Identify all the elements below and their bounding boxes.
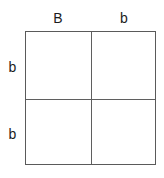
row-header-1: b	[2, 57, 23, 77]
punnett-cell[interactable]	[92, 100, 155, 164]
column-header-2: b	[91, 8, 157, 28]
punnett-cell[interactable]	[26, 32, 91, 99]
punnett-cell[interactable]	[26, 100, 91, 164]
column-header-1: B	[25, 8, 91, 28]
punnett-square: B b b b	[0, 0, 164, 178]
row-header-2: b	[2, 124, 23, 144]
punnett-grid	[25, 31, 156, 165]
punnett-cell[interactable]	[92, 32, 155, 99]
